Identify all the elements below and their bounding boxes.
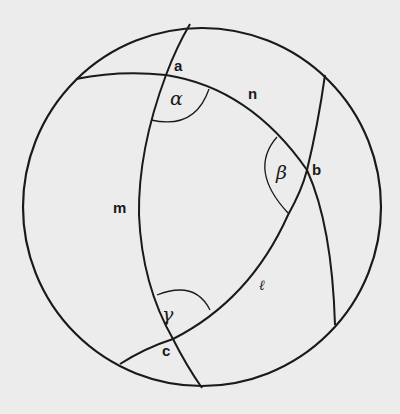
great-circle-l bbox=[120, 75, 325, 364]
arc-label-n: n bbox=[248, 86, 257, 101]
arc-label-l: ℓ bbox=[259, 278, 265, 292]
angle-label-beta: β bbox=[276, 163, 287, 182]
angle-label-gamma: γ bbox=[162, 305, 173, 324]
diagram-canvas bbox=[0, 0, 400, 414]
great-circle-m bbox=[139, 24, 202, 388]
vertex-label-b: b bbox=[312, 162, 321, 177]
arc-label-m: m bbox=[113, 200, 126, 215]
vertex-label-c: c bbox=[162, 343, 170, 358]
vertex-label-a: a bbox=[174, 58, 182, 73]
sphere-outline bbox=[23, 28, 381, 386]
angle-label-alpha: α bbox=[170, 89, 183, 108]
